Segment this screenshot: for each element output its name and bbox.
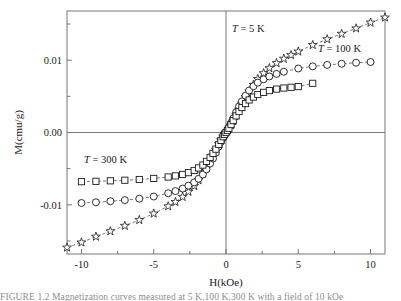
marker-square xyxy=(107,178,113,184)
x-tick-label: 10 xyxy=(365,259,376,270)
marker-circle xyxy=(150,193,157,200)
marker-circle xyxy=(295,65,302,72)
marker-star xyxy=(135,215,144,223)
x-axis-ticks: -10-50510 xyxy=(74,249,375,270)
y-tick-label: -0.01 xyxy=(40,200,62,211)
x-tick-label: 0 xyxy=(223,259,228,270)
x-axis-title: H(kOe) xyxy=(209,276,243,289)
marker-square xyxy=(273,86,279,92)
marker-star xyxy=(323,35,332,43)
x-tick-label: -10 xyxy=(74,259,88,270)
marker-circle xyxy=(172,188,179,195)
magnetization-chart: -10-505100.010.00-0.01H(kOe)M(cmu/g)T = … xyxy=(0,0,401,301)
figure-caption: FIGURE 1.2 Magnetization curves measured… xyxy=(0,292,401,301)
marker-square xyxy=(122,177,128,183)
marker-square xyxy=(288,84,294,90)
marker-circle xyxy=(107,198,114,205)
marker-star xyxy=(92,232,101,240)
marker-circle xyxy=(338,60,345,67)
marker-square xyxy=(151,175,157,181)
marker-star xyxy=(352,24,361,32)
temperature-value: = 5 K xyxy=(238,23,265,34)
marker-square xyxy=(165,174,171,180)
series-label-300k: T = 300 K xyxy=(84,154,127,165)
marker-star xyxy=(164,202,173,210)
y-tick-label: 0.00 xyxy=(44,127,62,138)
marker-star xyxy=(337,29,346,37)
marker-circle xyxy=(121,197,128,204)
marker-square xyxy=(136,176,142,182)
marker-star xyxy=(149,209,158,217)
marker-star xyxy=(120,221,129,229)
marker-square xyxy=(310,80,316,86)
marker-circle xyxy=(165,190,172,197)
marker-circle xyxy=(92,199,99,206)
marker-square xyxy=(260,89,266,95)
marker-star xyxy=(171,197,180,205)
marker-circle xyxy=(367,58,374,65)
marker-circle xyxy=(324,61,331,68)
marker-square xyxy=(78,179,84,185)
marker-star xyxy=(265,64,274,72)
marker-circle xyxy=(309,63,316,70)
marker-square xyxy=(93,178,99,184)
temperature-value: = 300 K xyxy=(90,154,128,165)
temperature-value: = 100 K xyxy=(324,43,362,54)
marker-circle xyxy=(266,73,273,80)
marker-star xyxy=(279,54,288,62)
x-tick-label: 5 xyxy=(296,259,301,270)
y-tick-label: 0.01 xyxy=(44,55,62,66)
marker-circle xyxy=(136,195,143,202)
x-tick-label: -5 xyxy=(149,259,158,270)
marker-square xyxy=(281,85,287,91)
y-axis-title: M(cmu/g) xyxy=(12,110,25,155)
marker-circle xyxy=(78,200,85,207)
marker-circle xyxy=(353,59,360,66)
marker-square xyxy=(266,87,272,93)
marker-square xyxy=(172,173,178,179)
marker-square xyxy=(295,83,301,89)
marker-star xyxy=(308,40,317,48)
marker-star xyxy=(366,18,375,26)
marker-circle xyxy=(280,68,287,75)
figure-container: -10-505100.010.00-0.01H(kOe)M(cmu/g)T = … xyxy=(0,0,401,301)
series-label-5k: T = 5 K xyxy=(232,23,265,34)
series-label-100k: T = 100 K xyxy=(318,43,361,54)
marker-star xyxy=(178,192,187,200)
marker-square xyxy=(180,171,186,177)
marker-square xyxy=(255,91,261,97)
marker-star xyxy=(77,238,86,246)
marker-circle xyxy=(273,70,280,77)
marker-star xyxy=(106,227,115,235)
marker-square xyxy=(185,170,191,176)
